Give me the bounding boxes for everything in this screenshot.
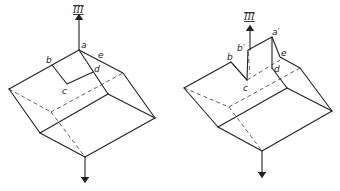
label-b-left: b (46, 55, 52, 65)
label-d-left: d (94, 64, 100, 74)
label-a-left: a (81, 40, 87, 50)
label-c-right: c (243, 83, 248, 93)
axis-label-left: III (72, 5, 84, 15)
label-d-right: d (274, 64, 280, 74)
edge-bc-right (231, 62, 247, 80)
hidden-edge-right-3 (229, 107, 262, 151)
right-edge-right (287, 88, 332, 111)
bottom-edges-left (40, 118, 155, 157)
label-c-left: c (62, 86, 67, 96)
axis-label-right: III (243, 12, 255, 22)
label-b-prime: b′ (237, 43, 245, 53)
label-e-right: e (281, 48, 287, 58)
label-a-prime: a′ (272, 27, 280, 37)
label-e-left: e (98, 50, 104, 60)
hidden-edge-left-1 (9, 89, 51, 112)
hidden-edge-right-5 (248, 52, 250, 74)
left-edge-left (9, 89, 40, 133)
right-edge-left (108, 94, 155, 118)
right-figure: III a′ b′ b c d e (184, 12, 332, 175)
crystal-diagram: III a e b c d III (0, 0, 340, 191)
front-edge-left (40, 94, 108, 133)
hidden-edge-left-3 (51, 112, 85, 157)
left-figure: III a e b c d (9, 5, 155, 180)
raised-block-right (247, 37, 332, 111)
label-b-right: b (227, 52, 233, 62)
top-left-right (184, 62, 247, 88)
front-edge-right (218, 88, 287, 127)
left-edge-right (184, 88, 218, 127)
hidden-edge-right-1 (184, 88, 229, 107)
top-edges-left (9, 50, 155, 118)
notch-left (52, 65, 93, 84)
